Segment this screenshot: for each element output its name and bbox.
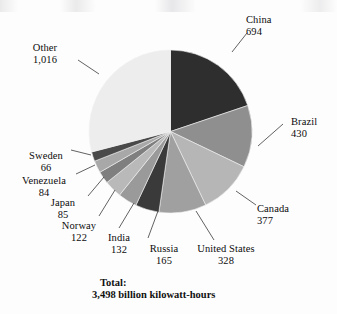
slice-label-china: China 694 bbox=[246, 14, 272, 38]
slice-label-japan-name: Japan bbox=[32, 197, 94, 209]
slice-label-brazil-name: Brazil bbox=[291, 116, 317, 128]
slice-label-russia-value: 165 bbox=[124, 255, 204, 267]
slice-label-canada-value: 377 bbox=[257, 215, 289, 227]
slice-label-sweden: Sweden 66 bbox=[11, 150, 81, 174]
leader-line-united-states bbox=[196, 211, 214, 240]
pie-slice-group bbox=[89, 50, 252, 213]
pie-chart-figure: China 694 Brazil 430 Canada 377 United S… bbox=[0, 0, 337, 314]
total-label: Total: bbox=[92, 277, 215, 289]
leader-line-india bbox=[119, 203, 134, 228]
chart-total-annotation: Total: 3,498 billion kilowatt-hours bbox=[92, 277, 215, 301]
slice-label-norway: Norway 122 bbox=[41, 220, 117, 244]
slice-label-india-value: 132 bbox=[88, 244, 150, 256]
slice-label-other-name: Other bbox=[12, 42, 78, 54]
slice-label-other: Other 1,016 bbox=[12, 42, 78, 66]
slice-label-sweden-value: 66 bbox=[11, 162, 81, 174]
leader-line-brazil bbox=[258, 124, 283, 146]
slice-label-china-value: 694 bbox=[246, 26, 272, 38]
slice-label-norway-name: Norway bbox=[41, 220, 117, 232]
slice-label-sweden-name: Sweden bbox=[11, 150, 81, 162]
total-value-text: 3,498 billion kilowatt-hours bbox=[92, 289, 215, 301]
slice-label-japan: Japan 85 bbox=[32, 197, 94, 221]
leader-line-canada bbox=[236, 191, 256, 205]
slice-label-canada: Canada 377 bbox=[257, 203, 289, 227]
slice-label-other-value: 1,016 bbox=[12, 54, 78, 66]
slice-label-brazil: Brazil 430 bbox=[291, 116, 317, 140]
leader-line-other bbox=[78, 60, 99, 74]
leader-line-japan bbox=[88, 177, 104, 196]
slice-label-china-name: China bbox=[246, 14, 272, 26]
slice-label-norway-value: 122 bbox=[41, 232, 117, 244]
slice-label-canada-name: Canada bbox=[257, 203, 289, 215]
leader-line-china bbox=[232, 33, 247, 52]
slice-label-brazil-value: 430 bbox=[291, 128, 317, 140]
slice-label-japan-value: 85 bbox=[32, 209, 94, 221]
slice-label-venezuela: Venezuela 84 bbox=[4, 175, 84, 199]
slice-label-venezuela-value: 84 bbox=[4, 187, 84, 199]
leader-line-norway bbox=[99, 190, 115, 216]
slice-label-venezuela-name: Venezuela bbox=[4, 175, 84, 187]
